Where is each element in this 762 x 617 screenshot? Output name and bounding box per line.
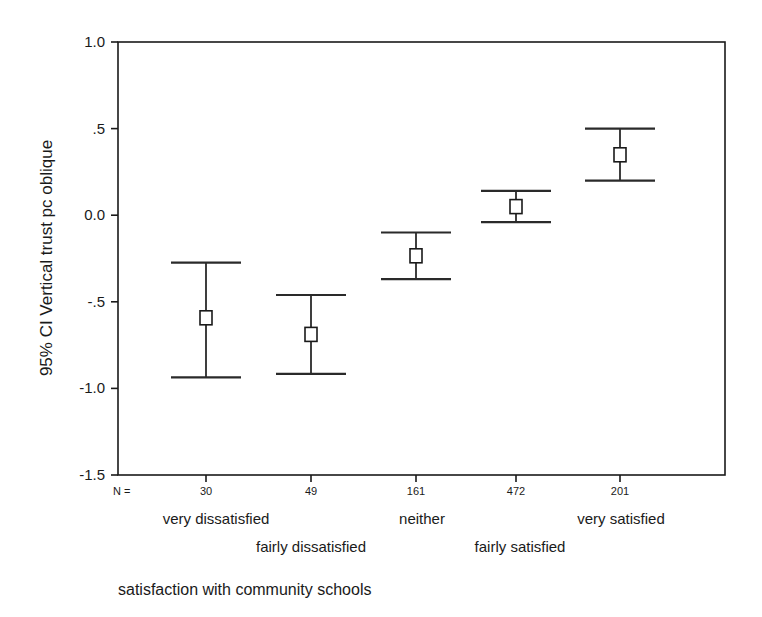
y-tick-label: -1.0 [79, 379, 105, 396]
y-tick-label: .5 [92, 120, 105, 137]
error-bar-chart: 1.0 .5 0.0 -.5 -1.0 -1.5 95% CI Vertical… [0, 0, 762, 617]
n-value: 30 [200, 485, 212, 497]
mean-marker [305, 327, 317, 341]
x-axis-ticks [206, 475, 620, 482]
n-value: 49 [305, 485, 317, 497]
category-label-neither: neither [399, 510, 445, 527]
x-axis-category-labels: very dissatisfied fairly dissatisfied ne… [163, 510, 665, 555]
y-tick-label: 0.0 [84, 206, 105, 223]
n-value: 201 [611, 485, 629, 497]
y-tick-label: -.5 [87, 293, 105, 310]
error-bar-neither [381, 233, 451, 280]
category-label-very-dissatisfied: very dissatisfied [163, 510, 270, 527]
category-label-fairly-satisfied: fairly satisfied [475, 538, 566, 555]
y-tick-label: -1.5 [79, 466, 105, 483]
n-equals-label: N = [113, 485, 130, 497]
x-axis-title: satisfaction with community schools [118, 581, 371, 598]
error-bar-very-dissatisfied [171, 263, 241, 378]
mean-marker [410, 249, 422, 263]
n-values-row: 30 49 161 472 201 [200, 485, 629, 497]
error-bar-very-satisfied [585, 129, 655, 181]
mean-marker [200, 311, 212, 325]
error-bar-fairly-satisfied [481, 191, 551, 222]
error-bar-fairly-dissatisfied [276, 295, 346, 374]
category-label-very-satisfied: very satisfied [577, 510, 665, 527]
n-value: 161 [407, 485, 425, 497]
n-value: 472 [507, 485, 525, 497]
y-axis-ticks [111, 42, 118, 475]
mean-marker [510, 200, 522, 214]
y-axis-title: 95% CI Vertical trust pc oblique [37, 140, 56, 376]
mean-marker [614, 148, 626, 162]
plot-svg: 1.0 .5 0.0 -.5 -1.0 -1.5 95% CI Vertical… [0, 0, 762, 617]
category-label-fairly-dissatisfied: fairly dissatisfied [256, 538, 366, 555]
y-tick-label: 1.0 [84, 33, 105, 50]
error-bars-group [171, 129, 655, 378]
y-axis-tick-labels: 1.0 .5 0.0 -.5 -1.0 -1.5 [79, 33, 105, 483]
